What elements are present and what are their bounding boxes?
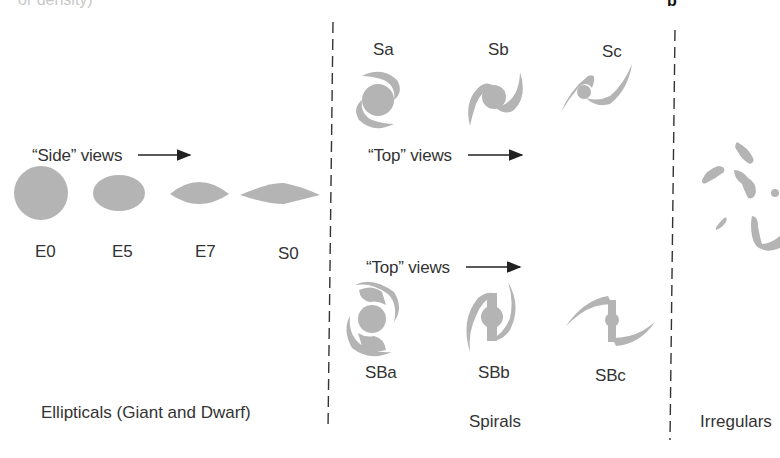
divider-spirals-irregulars	[670, 30, 675, 440]
galaxy-sa-shape	[356, 72, 400, 128]
galaxy-sba-shape	[346, 282, 399, 356]
top-views-label-barred: “Top” views	[366, 259, 450, 276]
irregulars-caption: Irregulars	[700, 413, 772, 430]
galaxy-sc-shape	[561, 64, 632, 112]
galaxy-irregular-shapes	[702, 142, 780, 251]
galaxy-e5-shape	[93, 175, 145, 211]
galaxy-sbc-shape	[566, 296, 655, 346]
galaxy-e7-shape	[170, 182, 229, 204]
ellipticals-caption: Ellipticals (Giant and Dwarf)	[41, 404, 251, 421]
galaxy-sbc-label: SBc	[595, 367, 626, 384]
galaxy-sbb-label: SBb	[478, 364, 510, 381]
galaxy-sa-label: Sa	[373, 41, 393, 58]
galaxy-s0-label: S0	[278, 245, 298, 262]
spirals-caption: Spirals	[469, 413, 521, 430]
galaxy-sc-label: Sc	[602, 43, 621, 60]
galaxy-sb-shape	[468, 72, 523, 126]
galaxy-sba-label: SBa	[365, 364, 397, 381]
galaxy-e7-label: E7	[195, 243, 215, 260]
galaxy-sbb-shape	[466, 282, 515, 352]
galaxy-classification-artwork	[0, 0, 780, 458]
galaxy-sb-label: Sb	[488, 41, 508, 58]
galaxy-e0-shape	[14, 166, 68, 220]
side-views-label: “Side” views	[32, 147, 122, 164]
galaxy-e5-label: E5	[112, 243, 132, 260]
galaxy-s0-shape	[240, 183, 320, 204]
divider-ellipticals-spirals	[328, 22, 333, 430]
galaxy-e0-label: E0	[35, 243, 55, 260]
top-views-label-normal: “Top” views	[368, 147, 452, 164]
